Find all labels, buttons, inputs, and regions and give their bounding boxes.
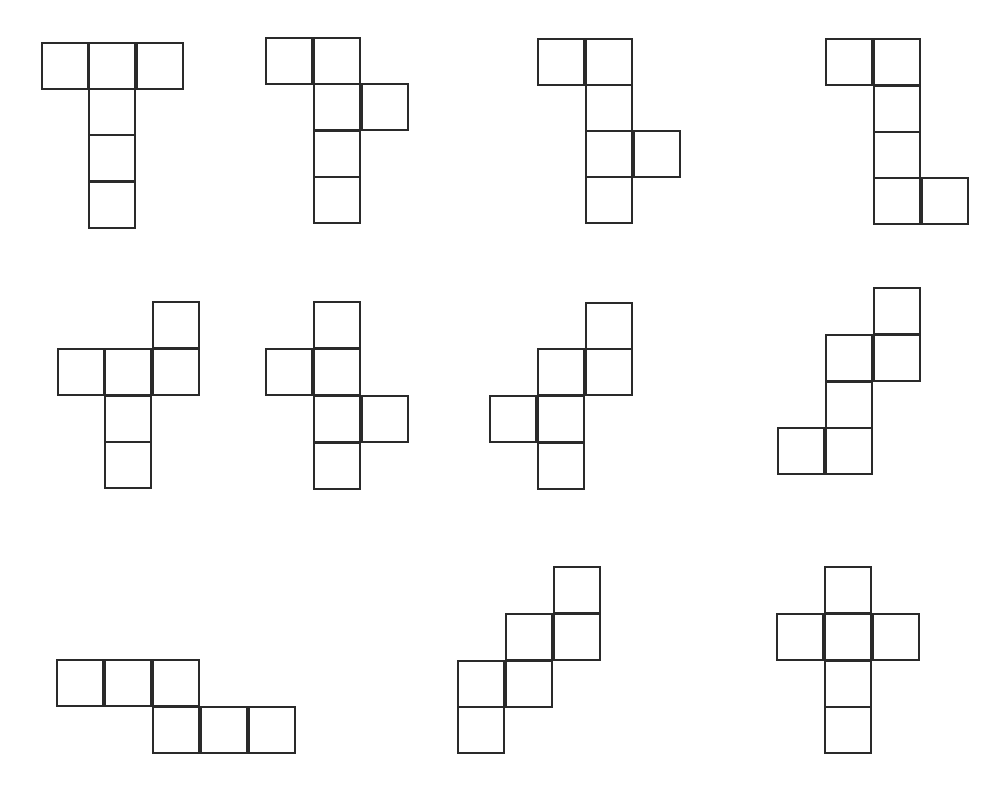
net-square	[313, 130, 361, 178]
net-square	[872, 613, 920, 661]
net-square	[585, 176, 633, 224]
net-square	[633, 130, 681, 178]
net-square	[553, 613, 601, 661]
net-square	[873, 177, 921, 225]
net-square	[824, 613, 872, 661]
net-square	[57, 348, 105, 396]
net-square	[152, 706, 200, 754]
net-square	[313, 301, 361, 349]
net-square	[825, 38, 873, 86]
net-square	[361, 83, 409, 131]
net-square	[873, 131, 921, 179]
net-square	[313, 348, 361, 396]
net-square	[537, 442, 585, 490]
net-square	[313, 176, 361, 224]
net-square	[824, 566, 872, 614]
net-square	[585, 38, 633, 86]
net-square	[56, 659, 104, 707]
cube-nets-diagram	[0, 0, 1004, 797]
net-square	[873, 85, 921, 133]
net-square	[313, 83, 361, 131]
net-square	[921, 177, 969, 225]
net-square	[585, 302, 633, 350]
net-square	[457, 660, 505, 708]
net-square	[248, 706, 296, 754]
net-square	[88, 42, 136, 90]
net-square	[265, 348, 313, 396]
net-square	[104, 659, 152, 707]
net-square	[585, 348, 633, 396]
net-square	[537, 348, 585, 396]
net-square	[136, 42, 184, 90]
net-square	[505, 613, 553, 661]
net-square	[313, 442, 361, 490]
net-square	[104, 348, 152, 396]
net-square	[873, 287, 921, 335]
net-square	[873, 38, 921, 86]
net-square	[825, 334, 873, 382]
net-square	[361, 395, 409, 443]
net-square	[313, 37, 361, 85]
net-square	[313, 395, 361, 443]
net-square	[824, 660, 872, 708]
net-square	[489, 395, 537, 443]
net-square	[776, 613, 824, 661]
net-square	[537, 395, 585, 443]
net-square	[152, 659, 200, 707]
net-square	[825, 381, 873, 429]
net-square	[265, 37, 313, 85]
net-square	[152, 301, 200, 349]
net-square	[873, 334, 921, 382]
net-square	[200, 706, 248, 754]
net-square	[537, 38, 585, 86]
net-square	[88, 134, 136, 182]
net-square	[505, 660, 553, 708]
net-square	[88, 88, 136, 136]
net-square	[88, 181, 136, 229]
net-square	[585, 130, 633, 178]
net-square	[777, 427, 825, 475]
net-square	[152, 348, 200, 396]
net-square	[824, 706, 872, 754]
net-square	[104, 395, 152, 443]
net-square	[825, 427, 873, 475]
net-square	[104, 441, 152, 489]
net-square	[585, 84, 633, 132]
net-square	[41, 42, 89, 90]
net-square	[553, 566, 601, 614]
net-square	[457, 706, 505, 754]
